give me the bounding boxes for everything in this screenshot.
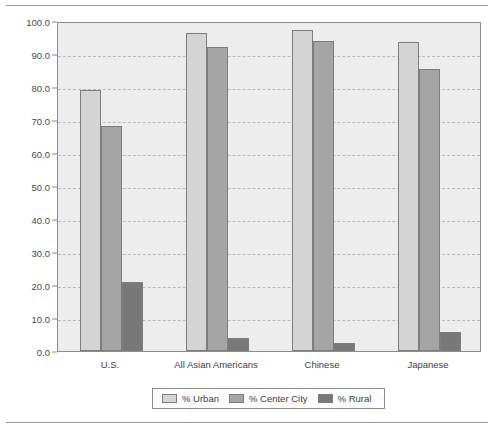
y-tick-label: 50.0 [32, 182, 51, 193]
y-tick-label: 100.0 [26, 17, 50, 28]
y-tick-mark [52, 88, 57, 89]
x-tick-label: Japanese [407, 359, 448, 370]
bar [334, 343, 355, 351]
legend-swatch [229, 394, 244, 403]
bar [398, 42, 419, 351]
y-tick-label: 10.0 [32, 314, 51, 325]
y-tick-mark [52, 187, 57, 188]
chart-figure: Percentages 0.010.020.030.040.050.060.07… [0, 0, 494, 429]
y-tick-label: 0.0 [37, 347, 50, 358]
y-tick-mark [52, 154, 57, 155]
y-tick-mark [52, 220, 57, 221]
bar [101, 126, 122, 351]
bar [186, 33, 207, 351]
bottom-divider-rule [6, 422, 488, 423]
y-tick-label: 90.0 [32, 50, 51, 61]
bar-group [292, 23, 355, 351]
bar [440, 332, 461, 351]
y-tick-label: 30.0 [32, 248, 51, 259]
y-tick-mark [52, 352, 57, 353]
bar [228, 338, 249, 351]
legend-item: % Rural [318, 393, 376, 404]
bar [292, 30, 313, 351]
y-tick-mark [52, 22, 57, 23]
y-tick-mark [52, 121, 57, 122]
x-tick-label: U.S. [101, 359, 119, 370]
legend-item: % Urban [162, 393, 223, 404]
bar-group [398, 23, 461, 351]
x-tick-label: Chinese [305, 359, 340, 370]
y-tick-label: 60.0 [32, 149, 51, 160]
legend-label: % Center City [249, 393, 312, 404]
y-tick-label: 40.0 [32, 215, 51, 226]
bar-group [186, 23, 249, 351]
y-tick-mark [52, 319, 57, 320]
bar [313, 41, 334, 351]
bar [122, 282, 143, 351]
x-tick-label: All Asian Americans [174, 359, 257, 370]
bar [419, 69, 440, 351]
legend-swatch [162, 394, 177, 403]
y-tick-mark [52, 55, 57, 56]
bar [207, 47, 228, 351]
y-tick-label: 80.0 [32, 83, 51, 94]
legend-item: % Center City [229, 393, 312, 404]
top-divider-rule [6, 5, 488, 6]
y-tick-label: 70.0 [32, 116, 51, 127]
legend-label: % Rural [338, 393, 376, 404]
y-tick-label: 20.0 [32, 281, 51, 292]
legend-swatch [318, 394, 333, 403]
legend-label: % Urban [182, 393, 223, 404]
y-tick-mark [52, 253, 57, 254]
chart-legend: % Urban% Center City% Rural [152, 388, 385, 409]
plot-area [57, 22, 481, 352]
y-tick-mark [52, 286, 57, 287]
bar [80, 90, 101, 351]
plot-wrapper: Percentages 0.010.020.030.040.050.060.07… [57, 22, 481, 352]
bar-group [80, 23, 143, 351]
